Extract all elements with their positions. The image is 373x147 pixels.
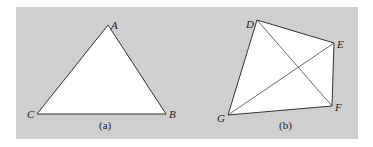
caption-a: (a) [99, 119, 112, 132]
quadrilateral-defg [228, 20, 334, 115]
vertex-label-g: G [217, 112, 225, 124]
vertex-label-c: C [27, 108, 35, 120]
vertex-label-b: B [169, 108, 176, 120]
geometry-figure: A B C (a) D E F G (b) [0, 0, 373, 147]
vertex-label-e: E [336, 38, 344, 50]
triangle-abc [37, 25, 166, 114]
caption-b: (b) [279, 119, 292, 132]
vertex-label-a: A [110, 19, 118, 31]
vertex-label-d: D [245, 18, 254, 30]
vertex-label-f: F [334, 101, 342, 113]
